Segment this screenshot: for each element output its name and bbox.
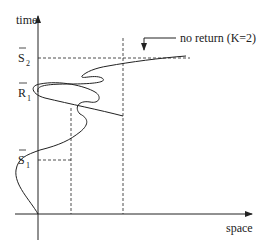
time-axis-label: time [16,13,37,27]
svg-text:1: 1 [27,94,31,103]
mark-s1: S 1 [18,150,30,170]
svg-text:R: R [18,86,26,100]
svg-text:2: 2 [26,59,30,68]
svg-text:S: S [18,51,25,65]
mark-s2: S 2 [18,48,30,68]
dashed-guides [38,38,190,214]
trajectory-curve-mid [38,56,186,92]
trajectory-diagram: time space no return (K=2) S 2 R 1 S 1 [0,0,268,242]
annotation-text: no return (K=2) [180,31,256,45]
trajectory-curve [16,83,123,214]
annotation-leader [144,38,176,50]
space-axis-label: space [226,221,253,235]
svg-text:1: 1 [26,161,30,170]
mark-r1: R 1 [18,83,31,103]
svg-text:S: S [18,153,25,167]
